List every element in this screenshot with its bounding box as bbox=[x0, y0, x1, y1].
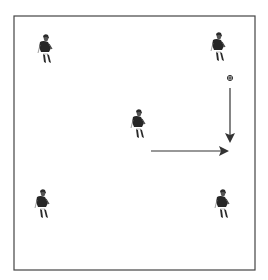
drill-diagram bbox=[0, 0, 268, 280]
player-icon-top-right bbox=[211, 32, 225, 61]
field-boundary bbox=[14, 16, 255, 270]
player-icon-center bbox=[131, 109, 145, 138]
ball-icon bbox=[227, 75, 232, 80]
player-icon-top-left bbox=[38, 34, 52, 63]
player-icon-bottom-left bbox=[35, 189, 49, 218]
player-icon-bottom-right bbox=[215, 189, 229, 218]
